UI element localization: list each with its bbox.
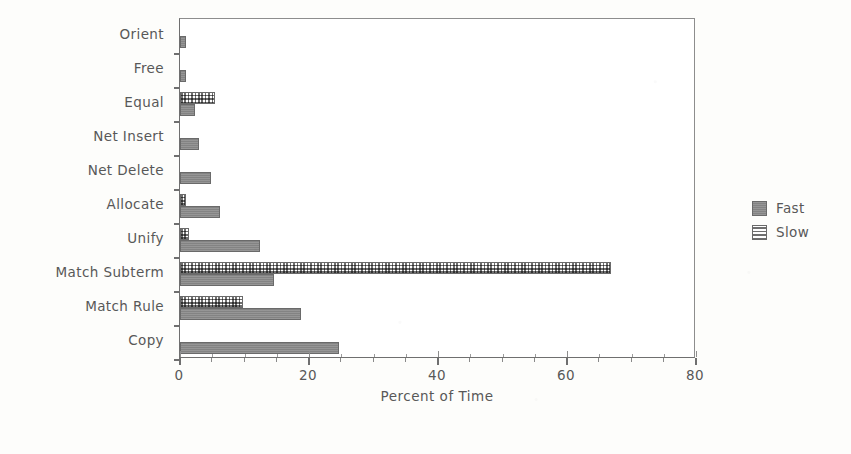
x-tick-minor [534, 358, 535, 362]
x-tick-minor [502, 358, 503, 362]
y-axis-label-net-insert: Net Insert [93, 130, 164, 144]
y-axis-label-unify: Unify [127, 232, 164, 246]
legend-item-fast: Fast [752, 196, 847, 220]
top-tick [632, 354, 633, 358]
bar-fast-free [180, 70, 186, 82]
top-tick [470, 354, 471, 358]
y-tick [174, 121, 180, 123]
y-tick [174, 257, 180, 259]
top-tick [664, 354, 665, 358]
legend-label-slow: Slow [776, 224, 809, 240]
legend-swatch-slow-icon [752, 225, 767, 240]
y-tick [174, 189, 180, 191]
x-tick-label-20: 20 [299, 367, 317, 383]
x-tick-minor [340, 358, 341, 362]
x-tick-minor [405, 358, 406, 362]
x-axis: 020406080 [179, 358, 695, 388]
top-tick [374, 354, 375, 358]
x-tick-minor [663, 358, 664, 362]
top-tick [406, 354, 407, 358]
x-tick-minor [373, 358, 374, 362]
top-tick [503, 354, 504, 358]
top-tick [212, 354, 213, 358]
legend-label-fast: Fast [776, 200, 805, 216]
x-tick-label-0: 0 [175, 367, 184, 383]
bar-fast-match-rule [180, 308, 301, 320]
x-tick-minor [598, 358, 599, 362]
y-tick [174, 325, 180, 327]
legend-swatch-fast-icon [752, 201, 767, 216]
top-tick [535, 354, 536, 358]
bar-slow-match-rule [180, 296, 243, 308]
y-tick [174, 291, 180, 293]
x-tick-minor [469, 358, 470, 362]
y-axis-category-labels: OrientFreeEqualNet InsertNet DeleteAlloc… [0, 18, 172, 358]
bar-fast-net-delete [180, 172, 211, 184]
bar-slow-match-subterm [180, 262, 611, 274]
y-axis-label-match-subterm: Match Subterm [56, 266, 164, 280]
top-tick [696, 351, 697, 357]
x-tick-major [179, 358, 181, 365]
y-tick [174, 53, 180, 55]
y-axis-label-allocate: Allocate [107, 198, 165, 212]
chart-legend: FastSlow [752, 196, 847, 244]
x-tick-minor [276, 358, 277, 362]
bar-fast-copy [180, 342, 339, 354]
x-tick-label-40: 40 [428, 367, 446, 383]
top-tick [245, 354, 246, 358]
top-tick [277, 354, 278, 358]
top-tick [309, 351, 310, 357]
bars-container [180, 19, 694, 357]
bar-fast-orient [180, 36, 186, 48]
bar-fast-unify [180, 240, 260, 252]
x-axis-title: Percent of Time [179, 388, 695, 404]
bar-slow-equal [180, 92, 215, 104]
plot-area [179, 18, 695, 358]
top-tick [341, 354, 342, 358]
x-tick-major [695, 358, 697, 365]
bar-slow-allocate [180, 194, 186, 206]
bar-fast-net-insert [180, 138, 199, 150]
top-tick [180, 351, 181, 357]
x-tick-minor [244, 358, 245, 362]
x-tick-major [437, 358, 439, 365]
top-tick [599, 354, 600, 358]
y-axis-label-orient: Orient [120, 28, 164, 42]
x-tick-minor [631, 358, 632, 362]
x-tick-major [308, 358, 310, 365]
y-axis-label-match-rule: Match Rule [85, 300, 164, 314]
y-tick [174, 223, 180, 225]
x-tick-minor [211, 358, 212, 362]
y-axis-label-equal: Equal [124, 96, 164, 110]
bar-chart-figure: OrientFreeEqualNet InsertNet DeleteAlloc… [0, 0, 851, 454]
x-tick-label-60: 60 [557, 367, 575, 383]
y-tick [174, 87, 180, 89]
y-tick [174, 155, 180, 157]
bar-fast-allocate [180, 206, 220, 218]
legend-item-slow: Slow [752, 220, 847, 244]
bar-fast-equal [180, 104, 195, 116]
y-axis-label-net-delete: Net Delete [88, 164, 164, 178]
bar-slow-unify [180, 228, 189, 240]
bar-fast-match-subterm [180, 274, 274, 286]
top-tick [567, 351, 568, 357]
top-tick [438, 351, 439, 357]
y-axis-label-copy: Copy [128, 334, 164, 348]
x-tick-major [566, 358, 568, 365]
y-axis-label-free: Free [134, 62, 164, 76]
x-tick-label-80: 80 [686, 367, 704, 383]
